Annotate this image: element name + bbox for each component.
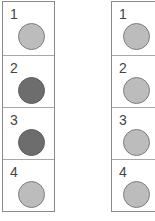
circle-indicator-icon <box>18 23 45 50</box>
circle-indicator-icon <box>123 77 150 104</box>
left-cell-1[interactable]: 1 <box>3 2 54 55</box>
cell-number: 1 <box>119 7 127 21</box>
cell-number: 2 <box>10 61 18 75</box>
circle-indicator-icon <box>18 77 45 104</box>
left-cell-3[interactable]: 3 <box>3 107 54 159</box>
cell-number: 4 <box>119 165 127 179</box>
cell-number: 3 <box>10 113 18 127</box>
cell-number: 3 <box>119 113 127 127</box>
circle-indicator-icon <box>18 129 45 156</box>
right-cell-4[interactable]: 4 <box>112 159 155 211</box>
circle-indicator-icon <box>123 181 150 208</box>
cell-number: 1 <box>10 7 18 21</box>
circle-indicator-icon <box>123 129 150 156</box>
right-cell-3[interactable]: 3 <box>112 107 155 159</box>
left-cell-4[interactable]: 4 <box>3 159 54 211</box>
left-panel: 1 2 3 4 <box>2 1 55 212</box>
cell-number: 2 <box>119 61 127 75</box>
left-cell-2[interactable]: 2 <box>3 55 54 107</box>
circle-indicator-icon <box>18 181 45 208</box>
circle-indicator-icon <box>123 23 150 50</box>
right-cell-2[interactable]: 2 <box>112 55 155 107</box>
right-panel: 1 2 3 4 <box>111 1 155 212</box>
cell-number: 4 <box>10 165 18 179</box>
right-cell-1[interactable]: 1 <box>112 2 155 55</box>
